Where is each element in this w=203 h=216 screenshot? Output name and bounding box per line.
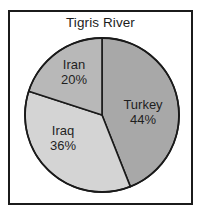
pie-plot-area	[23, 36, 181, 194]
chart-title: Tigris River	[8, 15, 193, 30]
pie-svg	[23, 36, 181, 194]
pie-chart-figure: Tigris River Turkey 44% Iraq 36% Iran 20…	[0, 0, 203, 216]
